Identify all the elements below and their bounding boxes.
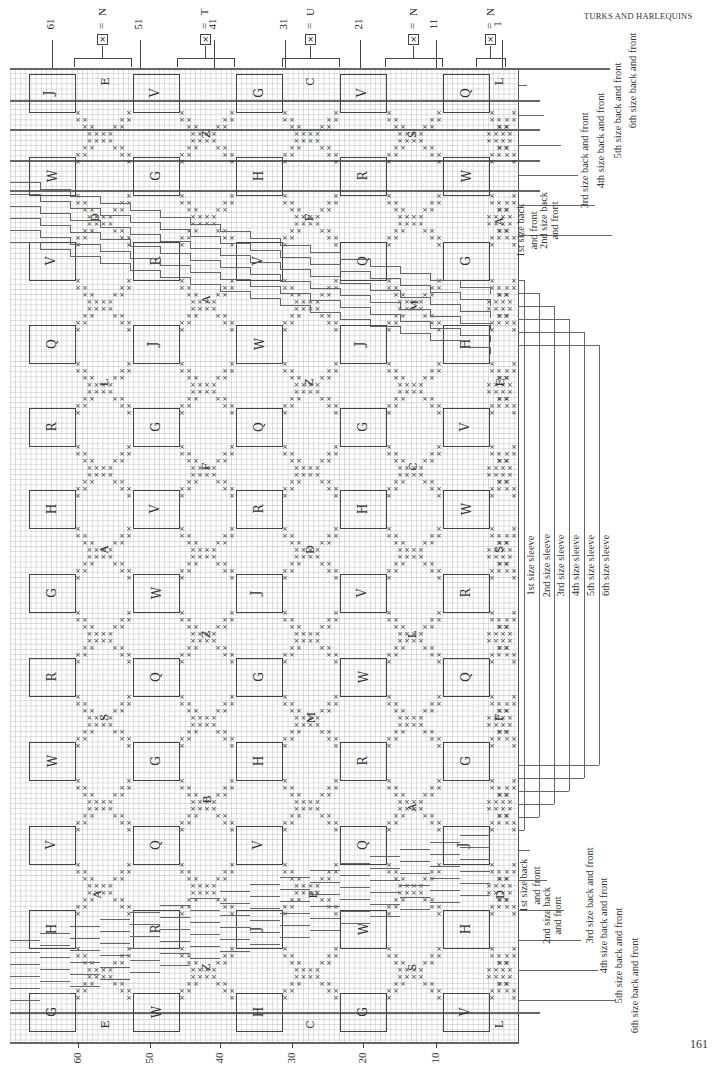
- cross-stitch-mark: ×: [326, 540, 332, 547]
- shaping-staircase-line-bottom: [280, 877, 310, 878]
- shaping-staircase-line-top: [370, 266, 400, 267]
- shaping-staircase-line-top: [430, 297, 431, 304]
- cross-stitch-mark: ×: [393, 652, 399, 659]
- cross-stitch-mark: ×: [82, 736, 88, 743]
- shaping-staircase-line-top: [340, 283, 370, 284]
- cross-stitch-mark: ×: [112, 396, 118, 403]
- shaping-staircase-line-bottom: [70, 986, 100, 987]
- top-frame-line: [10, 68, 610, 70]
- cross-stitch-mark: ×: [489, 200, 495, 207]
- sleeve-leader-horizontal: [518, 293, 539, 294]
- shaping-staircase-line-bottom: [340, 923, 370, 924]
- cross-stitch-mark: ×: [393, 235, 399, 242]
- cross-stitch-mark: ×: [296, 396, 302, 403]
- letter-box: Q: [443, 74, 490, 113]
- cross-stitch-mark: ×: [112, 145, 118, 152]
- cross-stitch-mark: ×: [429, 235, 435, 242]
- cross-stitch-mark: ×: [282, 451, 288, 458]
- cross-stitch-mark: ×: [386, 827, 392, 834]
- cross-stitch-mark: ×: [393, 988, 399, 995]
- size-label-back-front: 4th size back and front: [598, 878, 609, 974]
- sleeve-size-label: 4th size sleeve: [570, 535, 581, 596]
- shaping-staircase-line-top: [310, 276, 340, 277]
- shaping-staircase-line-bottom: [310, 930, 340, 931]
- cross-stitch-mark: ×: [282, 743, 288, 750]
- shaping-staircase-line-top: [250, 262, 280, 263]
- shaping-staircase-line-top: [40, 194, 41, 201]
- cross-stitch-mark: ×: [229, 451, 235, 458]
- shaping-staircase-line-top: [220, 236, 221, 243]
- box-letter: V: [44, 257, 58, 266]
- row-number-label: 31: [277, 19, 289, 30]
- color-key-bracket: [177, 58, 235, 67]
- cross-stitch-mark: ×: [496, 235, 502, 242]
- box-letter: G: [149, 171, 163, 181]
- cross-stitch-mark: ×: [393, 568, 399, 575]
- cross-stitch-mark: ×: [436, 200, 442, 207]
- shaping-staircase-line-top: [460, 340, 461, 347]
- letter-box: H: [236, 157, 283, 196]
- cross-stitch-mark: ×: [393, 736, 399, 743]
- cross-stitch-mark: ×: [326, 792, 332, 799]
- shaping-staircase-line-top: [10, 230, 40, 231]
- shaping-staircase-line-bottom: [430, 878, 460, 879]
- cross-stitch-mark: ×: [282, 327, 288, 334]
- letter-box: V: [29, 826, 76, 865]
- shaping-staircase-line-top: [370, 278, 400, 279]
- cross-stitch-mark: ×: [511, 869, 517, 876]
- cross-stitch-mark: ×: [411, 138, 417, 145]
- cross-stitch-mark: ×: [193, 313, 199, 320]
- cross-stitch-mark: ×: [89, 479, 95, 486]
- cross-stitch-mark: ×: [186, 486, 192, 493]
- cross-stitch-mark: ×: [75, 117, 81, 124]
- cross-stitch-mark: ×: [193, 145, 199, 152]
- diamond-letter: C: [304, 1020, 317, 1028]
- sleeve-leader-horizontal: [518, 280, 524, 281]
- box-letter: G: [459, 756, 473, 766]
- cross-stitch-mark: ×: [496, 320, 502, 327]
- cross-stitch-mark: ×: [511, 617, 517, 624]
- shaping-staircase-line-bottom: [10, 988, 40, 989]
- shaping-staircase-line-top: [130, 263, 131, 270]
- cross-stitch-mark: ×: [101, 722, 107, 729]
- cross-stitch-mark: ×: [436, 743, 442, 750]
- shaping-staircase-line-top: [430, 328, 460, 329]
- box-letter: R: [45, 422, 59, 431]
- cross-stitch-mark: ×: [75, 368, 81, 375]
- box-letter: H: [252, 756, 266, 766]
- shaping-staircase-line-top: [70, 237, 71, 244]
- sleeve-leader-horizontal: [518, 791, 569, 792]
- cross-stitch-mark: ×: [119, 486, 125, 493]
- cross-stitch-mark: ×: [186, 652, 192, 659]
- shaping-staircase-line-top: [40, 237, 70, 238]
- shaping-staircase-line-top: [220, 272, 221, 279]
- cross-stitch-mark: ×: [319, 228, 325, 235]
- shaping-staircase-line-bottom: [370, 868, 400, 869]
- cross-stitch-mark: ×: [289, 904, 295, 911]
- cross-stitch-mark: ×: [411, 722, 417, 729]
- cross-stitch-mark: ×: [204, 554, 210, 561]
- sleeve-size-label: 6th size sleeve: [600, 535, 611, 596]
- letter-box: Q: [340, 826, 387, 865]
- shaping-staircase-line-bottom: [340, 911, 370, 912]
- shaping-staircase-line-bottom: [370, 892, 400, 893]
- cross-stitch-mark: ×: [511, 785, 517, 792]
- shaping-staircase-line-bottom: [130, 972, 160, 973]
- letter-box: G: [236, 658, 283, 697]
- cross-stitch-mark: ×: [75, 953, 81, 960]
- cross-stitch-mark: ×: [229, 827, 235, 834]
- shaping-staircase-line-bottom: [370, 856, 400, 857]
- cross-stitch-mark: ×: [308, 554, 314, 561]
- diamond-letter: L: [493, 1021, 506, 1028]
- shaping-staircase-line-top: [430, 340, 460, 341]
- letter-box: R: [29, 658, 76, 697]
- cross-stitch-mark: ×: [511, 827, 517, 834]
- cross-stitch-mark: ×: [75, 493, 81, 500]
- key-equals: =: [406, 23, 418, 29]
- cross-stitch-mark: ×: [496, 568, 502, 575]
- box-letter: Q: [45, 339, 59, 349]
- cross-stitch-mark: ×: [319, 561, 325, 568]
- key-equals: =: [483, 23, 495, 29]
- stitch-number-label: 40: [213, 1053, 225, 1064]
- shaping-staircase-line-bottom: [460, 847, 490, 848]
